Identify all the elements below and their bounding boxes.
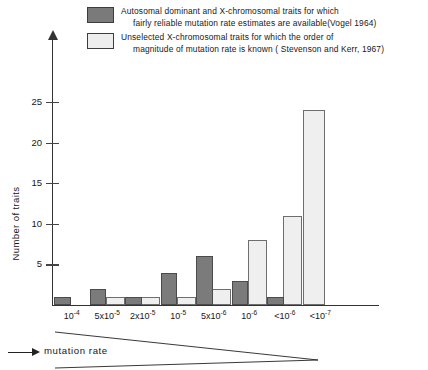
bar-light-5 <box>248 240 267 305</box>
bar-dark-0 <box>54 297 71 305</box>
plot-area: 510152025 Number of traits 10-45x10-52x1… <box>0 0 428 370</box>
bar-group <box>52 38 379 305</box>
bar-light-3 <box>177 297 196 305</box>
bar-light-7 <box>303 110 325 305</box>
bar-dark-6 <box>267 297 284 305</box>
bar-dark-1 <box>90 289 107 305</box>
bar-dark-5 <box>232 281 249 305</box>
y-axis-tick-label-5: 5 <box>20 258 42 269</box>
y-axis-tick-label-10: 10 <box>20 218 42 229</box>
y-axis-label: Number of traits <box>10 176 21 272</box>
y-axis-tick-label-15: 15 <box>20 177 42 188</box>
bar-light-4 <box>212 289 231 305</box>
bar-dark-4 <box>196 256 213 305</box>
x-axis-tick-label-7: <10-7 <box>296 309 346 321</box>
bar-light-1 <box>106 297 125 305</box>
mutation-rate-arrow-icon <box>32 348 40 356</box>
bar-dark-2 <box>125 297 142 305</box>
mutation-rate-histogram-figure: Autosomal dominant and X-chromosomal tra… <box>0 0 428 370</box>
x-axis-line <box>52 305 379 306</box>
y-axis-tick-label-25: 25 <box>20 96 42 107</box>
bar-light-2 <box>141 297 160 305</box>
y-axis-tick-label-20: 20 <box>20 137 42 148</box>
mutation-rate-arrow-line <box>8 352 34 353</box>
bar-dark-3 <box>161 273 178 305</box>
decreasing-wedge-shape <box>54 330 320 370</box>
bar-light-6 <box>283 216 302 305</box>
